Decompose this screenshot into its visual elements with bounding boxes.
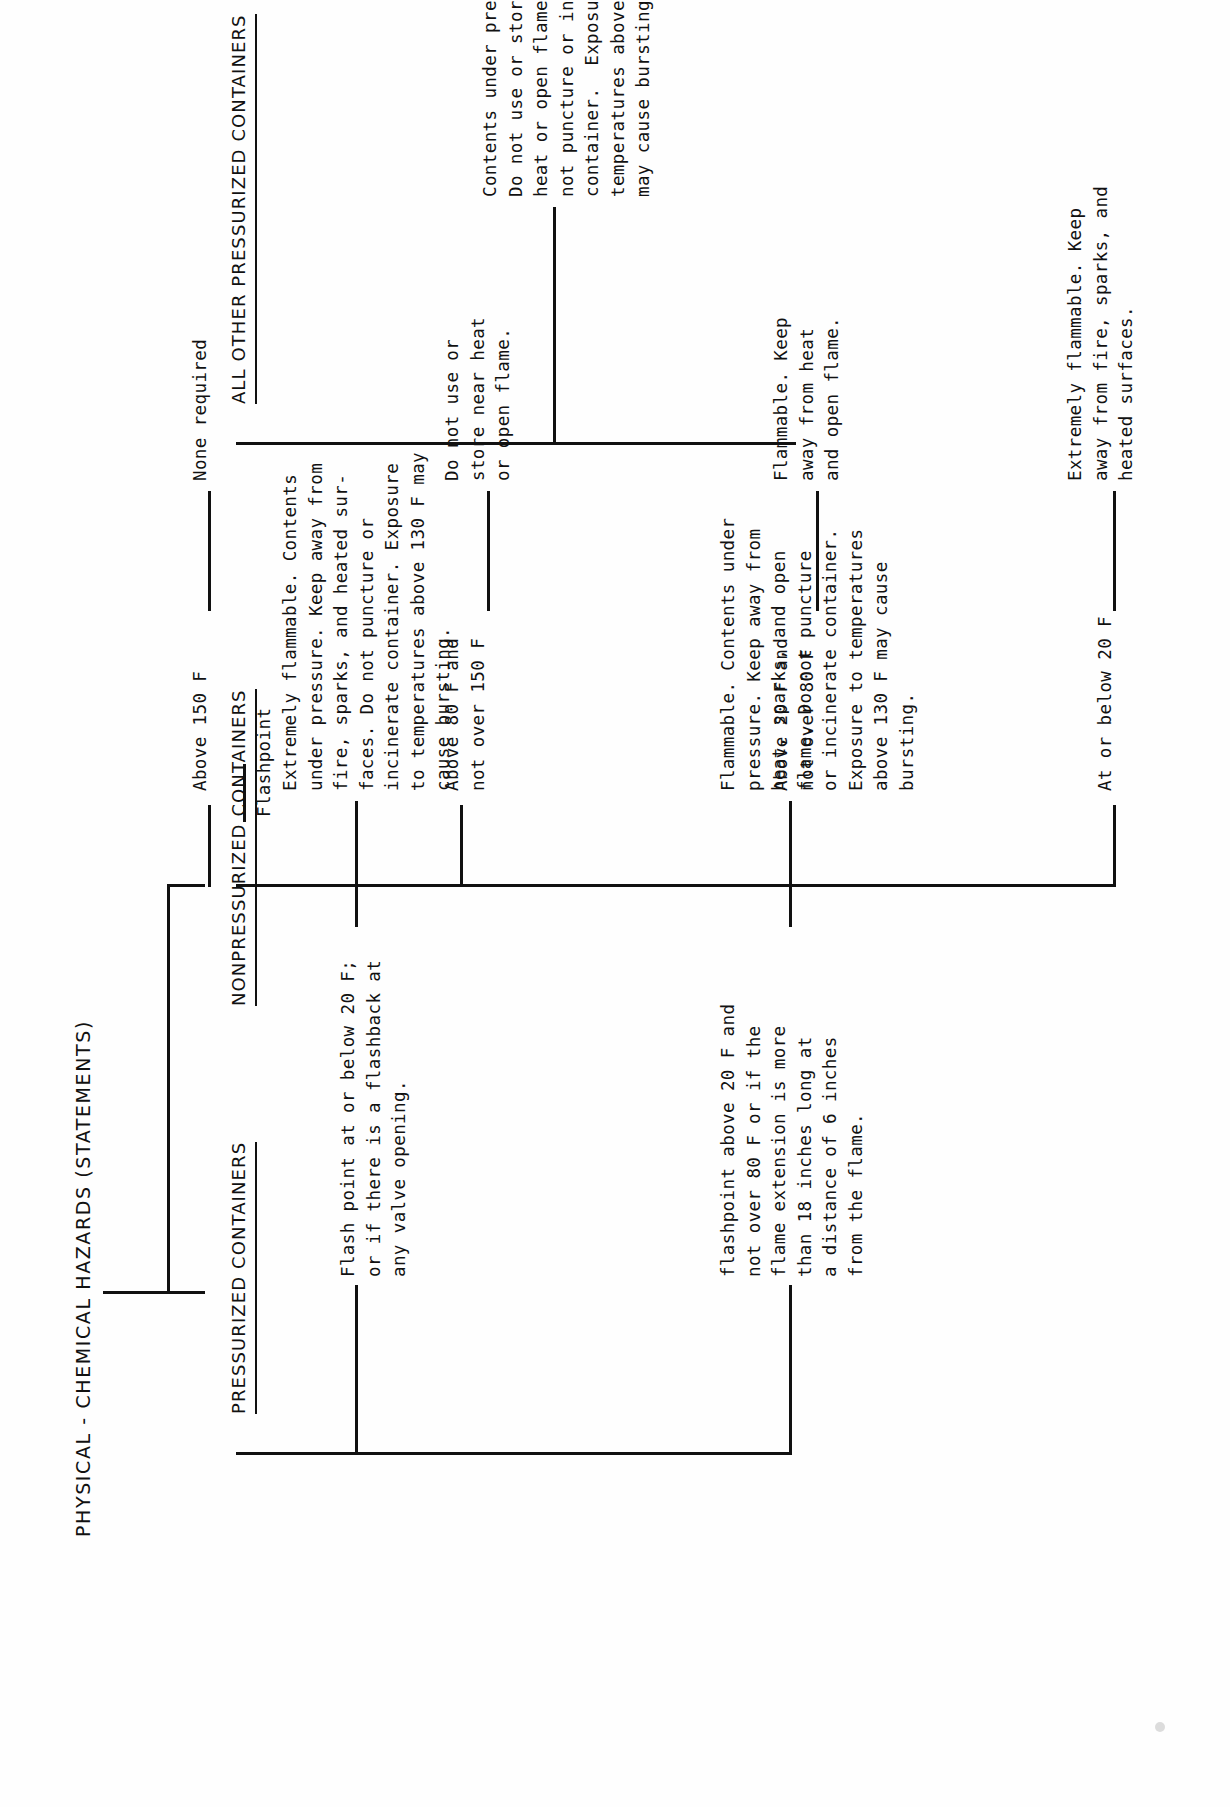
scan-artifact — [1155, 1722, 1165, 1732]
pressurized-branch-2 — [789, 1285, 792, 1455]
all-other-pressurized-branch-1 — [553, 207, 556, 445]
pressurized-condition-1: Flash point at or below 20 F; or if ther… — [336, 960, 413, 1277]
nonpressurized-condition-3: Above 80 F and not over 150 F — [440, 638, 491, 791]
pressurized-condition-2: flashpoint above 20 F and not over 80 F … — [716, 1004, 869, 1277]
nonpressurized-statement-3: Do not use or store near heat or open fl… — [440, 317, 517, 481]
all-other-pressurized-statement-1: Contents under pressure. Do not use or s… — [478, 0, 657, 197]
nonpressurized-branch-2 — [789, 805, 792, 887]
flashpoint-rule — [243, 764, 246, 822]
nonpressurized-statement-4: None required — [188, 339, 214, 481]
branch-heading-pressurized: PRESSURIZED CONTAINERS — [200, 1142, 283, 1455]
nonpressurized-branch-4 — [208, 805, 211, 887]
root-connector-horizontal — [167, 884, 170, 1294]
pressurized-statement-1: Extremely flammable. Contents under pres… — [278, 452, 457, 791]
nonpressurized-branch-3 — [460, 805, 463, 887]
pressurized-trunk — [236, 1452, 792, 1455]
root-connector-vertical — [103, 1291, 170, 1294]
pressurized-branch-1 — [355, 1285, 358, 1455]
scanned-page: PHYSICAL - CHEMICAL HAZARDS (STATEMENTS)… — [0, 0, 1230, 1807]
branch-heading-all-other-pressurized-label: ALL OTHER PRESSURIZED CONTAINERS — [226, 14, 256, 404]
nonpressurized-condition-2: Above 20 F and not over 80 F — [769, 638, 820, 791]
pressurized-statement-connector-1 — [355, 801, 358, 927]
nonpressurized-statement-connector-3 — [487, 491, 490, 611]
nonpressurized-trunk — [236, 884, 1116, 887]
page-title: PHYSICAL - CHEMICAL HAZARDS (STATEMENTS) — [70, 1020, 98, 1537]
nonpressurized-statement-2: Flammable. Keep away from heat and open … — [769, 317, 846, 481]
nonpressurized-statement-connector-2 — [816, 491, 819, 611]
nonpressurized-statement-connector-1 — [1113, 491, 1116, 611]
all-other-pressurized-trunk — [236, 442, 796, 445]
nonpressurized-condition-4: Above 150 F — [188, 671, 214, 791]
flashpoint-sublabel: Flashpoint — [252, 708, 278, 817]
diagram-canvas: PHYSICAL - CHEMICAL HAZARDS (STATEMENTS)… — [0, 0, 1230, 1807]
nonpressurized-statement-1: Extremely flammable. Keep away from fire… — [1063, 186, 1140, 481]
nonpressurized-condition-1: At or below 20 F — [1093, 616, 1119, 791]
branch-heading-pressurized-label: PRESSURIZED CONTAINERS — [226, 1142, 256, 1414]
nonpressurized-statement-connector-4 — [208, 491, 211, 611]
nonpressurized-branch-1 — [1113, 805, 1116, 887]
